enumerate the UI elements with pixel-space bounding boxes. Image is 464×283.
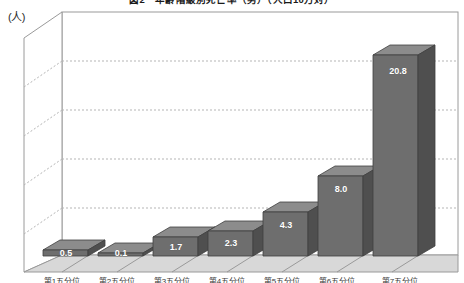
bar-column: 2.3	[208, 221, 270, 256]
bar-column: 4.3	[263, 202, 325, 256]
category-axis-strip: 第1五分位 第2五分位 第3五分位 第4五分位 第5五分位 第6五分位 第7五分…	[0, 274, 464, 283]
chart-plot-area: 0.5 0.1 1.7 2.3	[0, 0, 464, 283]
bar-column: 1.7	[153, 227, 215, 256]
chart-svg: 0.5 0.1 1.7 2.3	[0, 0, 464, 283]
plot-left-wall	[24, 12, 62, 272]
bar-value-label: 8.0	[335, 184, 348, 194]
category-label: 第6五分位	[319, 275, 355, 283]
bar-value-label: 2.3	[225, 238, 238, 248]
category-label: 第3五分位	[154, 275, 190, 283]
bar-value-label: 4.3	[280, 220, 293, 230]
bar-value-label: 20.8	[389, 66, 407, 76]
bar-value-label: 0.1	[115, 248, 128, 258]
bar-value-label: 1.7	[170, 242, 183, 252]
bar-value-label: 0.5	[60, 248, 73, 258]
chart-figure: 図2 年齢階級別死亡率（男）（人口10万対） (人)	[0, 0, 464, 283]
category-label: 第5五分位	[264, 275, 300, 283]
category-label: 第4五分位	[209, 275, 245, 283]
category-label: 第1五分位	[44, 275, 80, 283]
category-label: 第7五分位	[382, 275, 418, 283]
bar-column: 8.0	[318, 166, 380, 256]
bar-column: 20.8	[373, 45, 435, 256]
category-label: 第2五分位	[99, 275, 135, 283]
